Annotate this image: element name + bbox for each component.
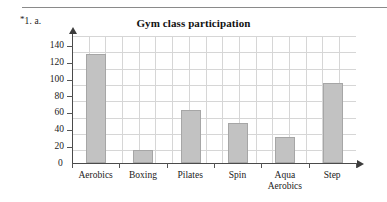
x-axis-label-step: Step [309,170,356,181]
plot-area-gridlines [72,36,356,163]
y-tick-label-140: 140 [26,41,64,51]
x-tick-mark-1 [119,163,120,168]
x-axis-line [72,163,358,164]
y-tick-mark-100 [67,80,73,81]
x-tick-mark-5 [309,163,310,168]
y-tick-mark-40 [67,130,73,131]
y-tick-mark-140 [67,46,73,47]
x-tick-mark-3 [214,163,215,168]
x-tick-mark-0 [72,163,73,168]
bar-step [323,83,343,163]
bar-chart: 140 120 100 80 60 40 20 0 Aerobics Boxin… [0,0,387,202]
x-axis-label-aerobics: Aerobics [72,170,119,181]
y-tick-label-20: 20 [26,142,64,152]
bar-aerobics [86,54,106,163]
x-tick-mark-4 [261,163,262,168]
bar-boxing [133,150,153,163]
y-tick-mark-120 [67,63,73,64]
x-axis-label-spin: Spin [214,170,261,181]
x-tick-mark-2 [167,163,168,168]
y-axis-arrow-icon [69,27,77,34]
y-tick-label-120: 120 [26,58,64,68]
y-tick-mark-20 [67,147,73,148]
bar-spin [228,123,248,163]
x-tick-mark-6 [356,163,357,168]
y-tick-label-40: 40 [26,125,64,135]
bar-pilates [181,110,201,164]
y-tick-mark-60 [67,113,73,114]
x-axis-arrow-icon [357,160,364,168]
y-tick-label-60: 60 [26,108,64,118]
x-axis-label-boxing: Boxing [119,170,166,181]
y-tick-mark-80 [67,96,73,97]
bar-aqua-aerobics [275,137,295,163]
y-tick-label-0: 0 [58,158,63,168]
y-axis-line [72,32,73,163]
worksheet-page: *1. a. Gym class participation 140 120 1… [0,0,387,202]
y-tick-label-100: 100 [26,75,64,85]
x-axis-label-aqua-aerobics: Aqua Aerobics [261,170,308,192]
y-tick-label-80: 80 [26,92,64,102]
x-axis-label-pilates: Pilates [167,170,214,181]
